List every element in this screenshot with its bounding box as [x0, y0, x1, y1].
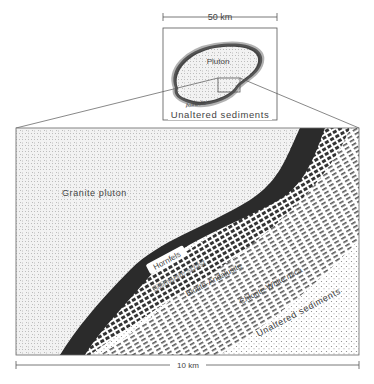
granite-pluton-label: Granite pluton [62, 188, 127, 198]
detail-scale-label: 10 km [177, 361, 199, 370]
inset-scale-label: 50 km [208, 12, 233, 22]
inset-sediments-label: Unaltered sediments [171, 109, 270, 120]
detail-map [16, 128, 359, 355]
inset-pluton-label: Pluton [207, 57, 230, 66]
contact-metamorphism-diagram: 50 km Pluton Aureole Unaltered sediments… [0, 0, 374, 384]
